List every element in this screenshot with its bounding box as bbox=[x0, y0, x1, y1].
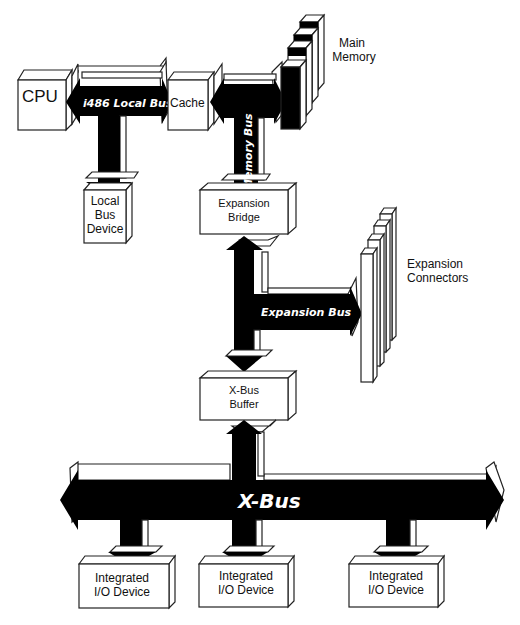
x-bus-label: X-Bus bbox=[236, 489, 301, 513]
expansion-connectors: Expansion Connectors bbox=[361, 208, 468, 382]
io-device-3-label-2: I/O Device bbox=[368, 583, 424, 597]
expansion-bus-arrow: Expansion Bus bbox=[226, 236, 362, 372]
main-memory-stack: Main Memory bbox=[281, 15, 376, 129]
io-device-2-label-1: Integrated bbox=[219, 569, 273, 583]
xbus-buffer-label-1: X-Bus bbox=[229, 384, 259, 396]
local-bus-device-label-2: Bus bbox=[95, 208, 116, 222]
io-device-1-label-2: I/O Device bbox=[94, 585, 150, 599]
memory-bus-arrow: Memory Bus bbox=[210, 62, 286, 200]
xbus-buffer-box: X-Bus Buffer bbox=[200, 371, 296, 420]
local-bus-device-label-3: Device bbox=[87, 222, 124, 236]
local-bus-arrow: i486 Local Bus bbox=[66, 58, 173, 124]
local-bus-label: i486 Local Bus bbox=[83, 97, 173, 110]
local-bus-device-box: Local Bus Device bbox=[84, 183, 132, 243]
expansion-bus-label: Expansion Bus bbox=[261, 306, 351, 319]
expansion-bridge-label-1: Expansion bbox=[218, 197, 269, 209]
main-memory-label-1: Main bbox=[339, 36, 365, 50]
cache-box: Cache bbox=[168, 72, 214, 130]
main-memory-label-2: Memory bbox=[332, 50, 375, 64]
io-device-3: Integrated I/O Device bbox=[349, 556, 444, 607]
system-bus-diagram: .bx{fill:#fff;stroke:#222;stroke-width:1… bbox=[0, 0, 520, 625]
io-device-3-label-1: Integrated bbox=[369, 569, 423, 583]
memory-bus-label: Memory Bus bbox=[242, 113, 255, 190]
expansion-bridge-box: Expansion Bridge bbox=[200, 183, 296, 234]
io-device-2: Integrated I/O Device bbox=[199, 556, 294, 607]
expansion-connectors-label-1: Expansion bbox=[407, 257, 463, 271]
expansion-bridge-label-2: Bridge bbox=[228, 211, 260, 223]
x-bus-arrow: X-Bus bbox=[60, 420, 504, 530]
xbus-buffer-label-2: Buffer bbox=[229, 398, 258, 410]
io-device-1-label-1: Integrated bbox=[95, 571, 149, 585]
cpu-box: CPU bbox=[18, 70, 72, 130]
io-device-1: Integrated I/O Device bbox=[79, 556, 175, 608]
io-device-2-label-2: I/O Device bbox=[218, 583, 274, 597]
cpu-label: CPU bbox=[22, 87, 58, 106]
diagram-canvas: .bx{fill:#fff;stroke:#222;stroke-width:1… bbox=[0, 0, 520, 625]
cache-label: Cache bbox=[170, 96, 205, 110]
expansion-connectors-label-2: Connectors bbox=[407, 271, 468, 285]
local-bus-device-label-1: Local bbox=[91, 194, 120, 208]
